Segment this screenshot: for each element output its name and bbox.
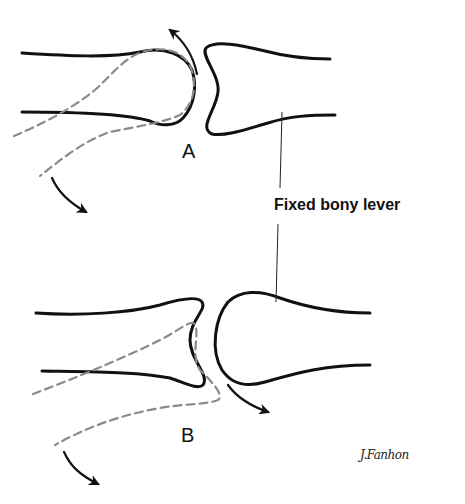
joint-motion-diagram bbox=[0, 0, 465, 504]
callout-leader-line-bottom bbox=[276, 224, 278, 302]
callout-leader-line-top bbox=[280, 112, 282, 188]
panel-b-fixed-bone bbox=[215, 292, 370, 384]
panel-a-label: A bbox=[182, 140, 195, 163]
panel-a bbox=[14, 30, 335, 212]
panel-a-fixed-bone bbox=[205, 44, 335, 135]
panel-b-label: B bbox=[181, 424, 194, 447]
panel-a-moving-bone bbox=[22, 50, 195, 125]
panel-b-moving-bone bbox=[36, 299, 204, 387]
panel-a-shaft-arrow-icon bbox=[52, 178, 86, 212]
panel-b bbox=[33, 292, 370, 484]
fixed-bony-lever-callout: Fixed bony lever bbox=[274, 196, 400, 214]
artist-signature: J.Fanhon bbox=[360, 448, 409, 462]
panel-b-head-arrow-icon bbox=[228, 385, 268, 412]
panel-b-shaft-arrow-icon bbox=[64, 452, 98, 484]
